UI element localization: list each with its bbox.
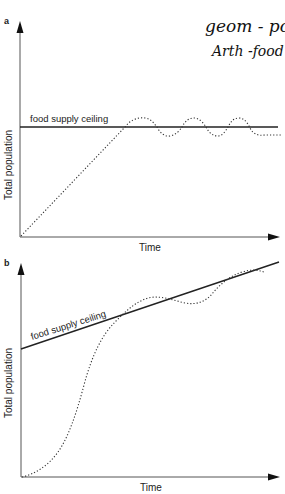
x-axis-arrow-icon xyxy=(268,234,280,241)
panel-label: b xyxy=(4,258,10,268)
note-line-2: Arth -food · xyxy=(210,43,285,59)
population-diagram: geom - pop Arth -food · a Time Total pop… xyxy=(0,0,285,494)
y-axis-arrow-icon xyxy=(17,21,24,33)
x-axis-label: Time xyxy=(140,482,162,493)
panel-label: a xyxy=(4,16,10,26)
population-curve xyxy=(21,118,281,236)
ceiling-label: food supply ceiling xyxy=(30,113,108,124)
x-axis-arrow-icon xyxy=(268,474,280,481)
ceiling-label: food supply ceiling xyxy=(29,308,107,342)
y-axis-arrow-icon xyxy=(18,263,25,275)
y-axis-label: Total population xyxy=(3,348,14,418)
note-line-1: geom - pop xyxy=(205,16,285,36)
handwritten-note: geom - pop Arth -food · xyxy=(205,16,285,59)
food-supply-ceiling-line xyxy=(21,262,279,349)
x-axis-label: Time xyxy=(139,242,161,253)
panel-b: b Time Total population food supply ceil… xyxy=(3,258,280,493)
population-curve xyxy=(22,270,264,477)
y-axis-label: Total population xyxy=(3,130,14,200)
